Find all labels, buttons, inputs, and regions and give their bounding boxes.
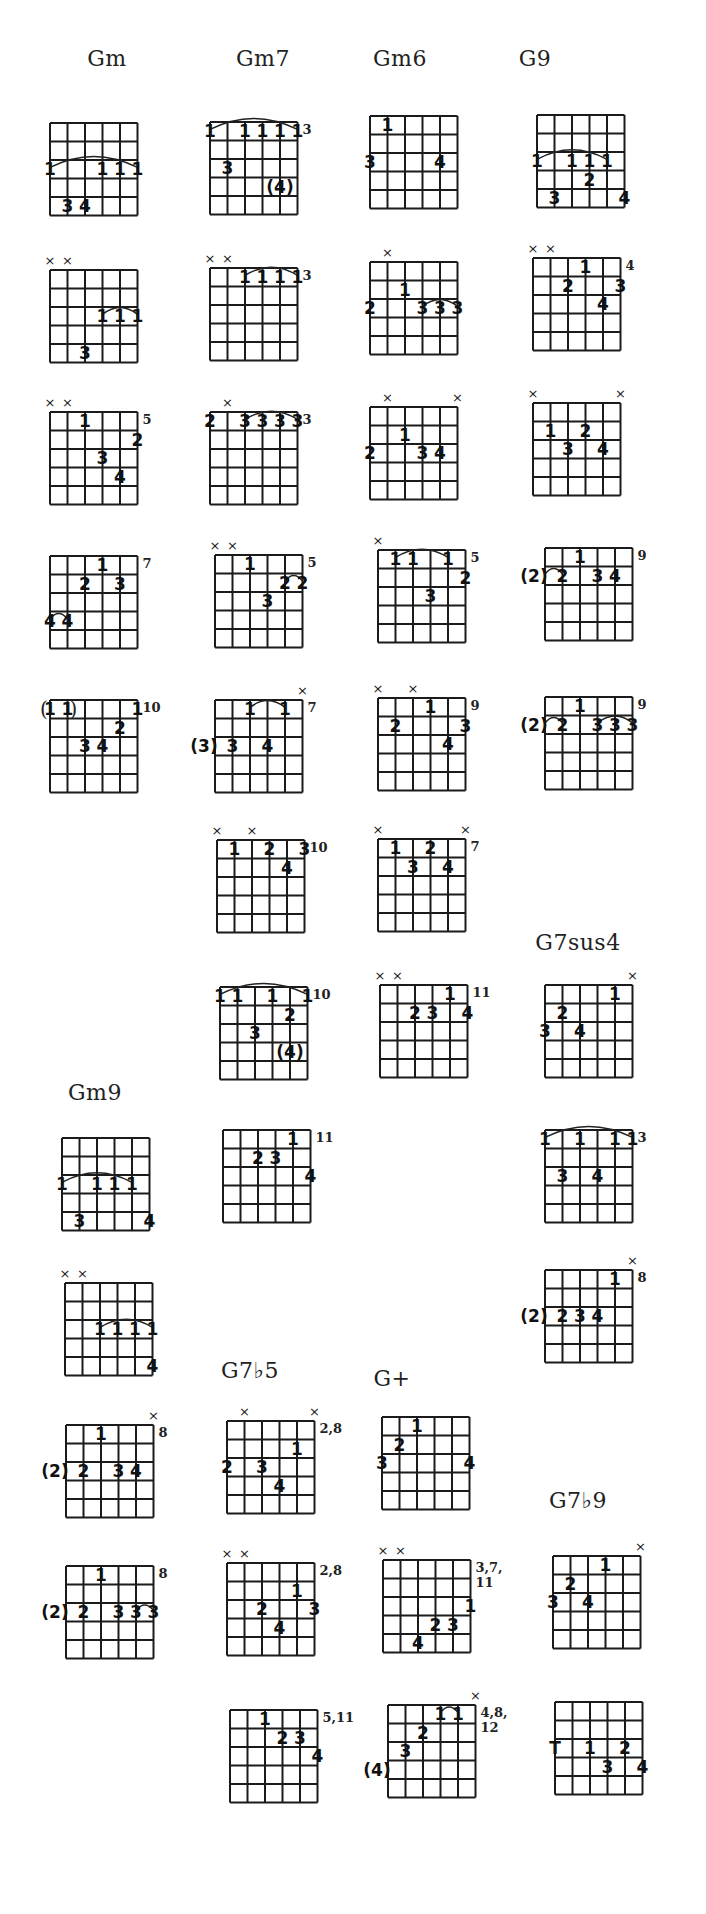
muted-string-icon: × [528,386,539,401]
finger-number: 2 [114,718,126,738]
finger-number: 4 [442,734,454,754]
optional-finger: (3) [190,736,217,756]
finger-number: 1 [239,267,251,287]
finger-number: 1 [382,115,394,135]
optional-finger: (2) [520,566,547,586]
finger-number: 1 [279,699,291,719]
muted-string-icon: × [297,683,308,698]
fret-position-label: 10 [313,987,331,1002]
chord-title-gm6: Gm6 [340,46,460,71]
finger-number: 2 [132,430,144,450]
chord-diagram-gm7: 123411 [223,1130,311,1223]
fretboard-grid [227,1421,315,1514]
chord-title-gm7: Gm7 [203,46,323,71]
optional-finger: (2) [520,715,547,735]
finger-number: 1 [95,1565,107,1585]
finger-number: 3 [114,574,126,594]
finger-number: 2 [204,411,216,431]
finger-number: 3 [249,1023,261,1043]
muted-string-icon: × [382,390,393,405]
finger-number: 4 [574,1021,586,1041]
chord-diagram-g7b5: ××12342,8 [227,1563,315,1656]
finger-number: 1 [56,1174,68,1194]
chord-diagram-g-: ××12343,7,11 [383,1560,471,1653]
finger-number: 2 [557,1003,569,1023]
muted-string-icon: × [210,538,221,553]
finger-number: 2 [619,1738,631,1758]
finger-number: 1 [257,121,269,141]
finger-number: 1 [97,555,109,575]
finger-number: 4 [412,1633,424,1653]
finger-number: 3 [257,411,269,431]
finger-number: 2 [264,839,276,859]
finger-number: 4 [79,196,91,216]
finger-number: 1 [601,151,613,171]
chord-diagram-g7sus4: ×1234 [545,985,633,1078]
finger-number: 1 [95,1424,107,1444]
muted-string-icon: × [373,822,384,837]
finger-number: 3 [460,716,472,736]
finger-number: 1 [435,1704,447,1724]
finger-number: 1 [91,1174,103,1194]
chord-diagram-g9: ××1234 [533,403,621,496]
fret-position-label: 4,8, [481,1705,508,1720]
fret-position-label: 5 [471,550,480,565]
finger-number: 4 [462,1003,474,1023]
chord-diagram-gm9: 111134 [62,1138,150,1231]
chord-diagram-g9: 12333(2)9 [545,697,633,790]
finger-number: 2 [409,1003,421,1023]
fret-position-label: 9 [638,548,647,563]
finger-number: 1 [147,1319,159,1339]
optional-finger: (2) [41,1461,68,1481]
finger-number: 1 [539,1129,551,1149]
finger-number: 2 [284,1005,296,1025]
finger-number: 1 [390,838,402,858]
chord-diagram-g9: ××12344 [533,258,621,351]
finger-number: 1 [291,1439,303,1459]
chord-diagram-gm7: ××123410 [217,840,305,933]
finger-number: 1 [465,1596,477,1616]
fret-position-label: 2,8 [320,1421,343,1436]
finger-number: 4 [274,1476,286,1496]
finger-number: 2 [79,574,91,594]
finger-number: 1 [114,159,126,179]
finger-number: 4 [305,1166,317,1186]
finger-number: 3 [113,1461,125,1481]
chord-diagram-gm: ××12345 [50,412,138,505]
chord-diagram-gm6: ××12347 [378,839,466,932]
muted-string-icon: × [62,395,73,410]
finger-number: 1 [239,121,251,141]
muted-string-icon: × [77,1266,88,1281]
finger-number: 1 [600,1555,612,1575]
muted-string-icon: × [382,245,393,260]
chord-diagram-gm6: ×12333 [370,262,458,355]
finger-number: 1 [274,267,286,287]
finger-number: 1 [390,549,402,569]
finger-number: 3 [62,196,74,216]
finger-number: 3 [434,298,446,318]
finger-number: 1 [609,984,621,1004]
finger-number: 1 [584,1738,596,1758]
muted-string-icon: × [227,538,238,553]
chord-diagram-gm: 111134 [50,123,138,216]
finger-number: 1 [229,839,241,859]
chord-title-gm: Gm [47,46,167,71]
fretboard-grid [553,1556,641,1649]
muted-string-icon: × [378,1543,389,1558]
muted-string-icon: × [247,823,258,838]
optional-paren: ( [40,697,48,721]
finger-number: 2 [565,1574,577,1594]
finger-number: 1 [574,547,586,567]
muted-string-icon: × [635,1539,646,1554]
muted-string-icon: × [408,681,419,696]
finger-number: 4 [582,1592,594,1612]
finger-number: 1 [574,696,586,716]
chord-diagram-g9: 1111234 [537,115,625,208]
finger-number: 3 [417,443,429,463]
finger-number: 4 [597,294,609,314]
finger-number: 1 [444,984,456,1004]
fretboard-grid [545,697,633,790]
fret-position-label: 11 [476,1575,494,1590]
finger-number: 1 [411,1416,423,1436]
chord-diagram-gm9: 12333(2)8 [66,1566,154,1659]
